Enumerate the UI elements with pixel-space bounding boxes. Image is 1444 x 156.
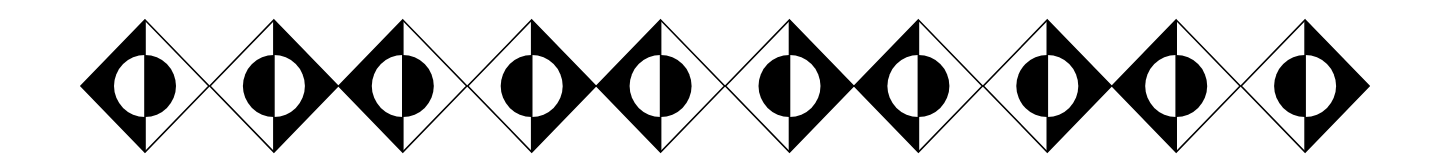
- diamond-ornament-4: [468, 20, 596, 152]
- diamond-ornament-10: [1241, 20, 1369, 152]
- diamond-ornament-2: [210, 20, 338, 152]
- diamond-ornament-6: [726, 20, 854, 152]
- filled-semicircle-half: [661, 55, 692, 117]
- filled-semicircle-half: [403, 55, 434, 117]
- filled-semicircle-half: [918, 55, 949, 117]
- filled-semicircle-half: [1016, 55, 1047, 117]
- diamond-ornament-8: [983, 20, 1111, 152]
- diamond-ornament-1: [81, 20, 209, 152]
- diamond-ornament-5: [597, 20, 725, 152]
- diamond-ornament-7: [854, 20, 982, 152]
- diamond-ornament-3: [339, 20, 467, 152]
- diamond-ornament-9: [1112, 20, 1240, 152]
- filled-semicircle-half: [1176, 55, 1207, 117]
- filled-semicircle-half: [1274, 55, 1305, 117]
- filled-semicircle-half: [243, 55, 274, 117]
- filled-semicircle-half: [759, 55, 790, 117]
- diamond-pattern-canvas: [0, 0, 1444, 156]
- filled-semicircle-half: [501, 55, 532, 117]
- filled-semicircle-half: [145, 55, 176, 117]
